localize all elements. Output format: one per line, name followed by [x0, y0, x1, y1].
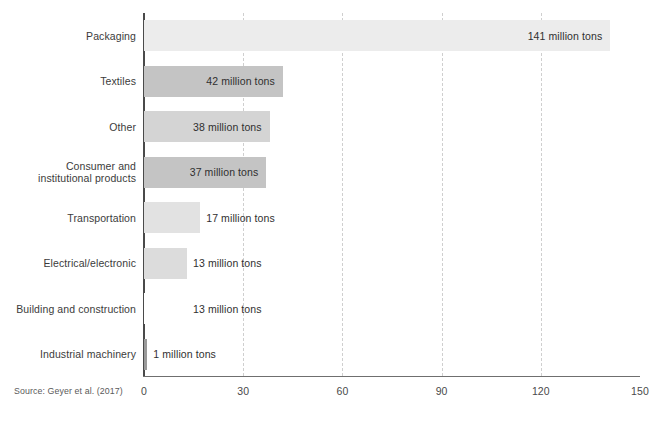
bar-value-label: 38 million tons [144, 104, 270, 150]
x-tick-90: 90 [436, 385, 448, 397]
table-row: Packaging141 million tons [0, 13, 667, 59]
bar-value-label: 1 million tons [153, 332, 216, 378]
category-label-line: Building and construction [16, 303, 136, 316]
x-tick-150: 150 [631, 385, 649, 397]
category-label-line: Electrical/electronic [43, 257, 136, 270]
x-tick-30: 30 [237, 385, 249, 397]
bar-value-label: 42 million tons [144, 59, 283, 105]
category-label-line: Transportation [67, 212, 136, 225]
category-label: Other [0, 104, 136, 150]
category-label: Building and construction [0, 286, 136, 332]
bar [144, 248, 187, 279]
bar [144, 339, 147, 370]
category-label-line: institutional products [38, 172, 136, 185]
category-label-line: Consumer and [66, 160, 136, 173]
table-row: Industrial machinery1 million tons [0, 332, 667, 378]
x-tick-120: 120 [532, 385, 550, 397]
category-label: Consumer andinstitutional products [0, 150, 136, 196]
category-label: Electrical/electronic [0, 241, 136, 287]
bar-value-label: 17 million tons [206, 195, 275, 241]
table-row: Building and construction13 million tons [0, 286, 667, 332]
bar-value-label: 13 million tons [193, 286, 262, 332]
category-label: Transportation [0, 195, 136, 241]
category-label-line: Packaging [86, 30, 136, 43]
table-row: Consumer andinstitutional products37 mil… [0, 150, 667, 196]
bar [144, 202, 200, 233]
bar-value-label: 37 million tons [144, 150, 266, 196]
bar-value-label: 13 million tons [193, 241, 262, 287]
category-label: Industrial machinery [0, 332, 136, 378]
bar-chart: Packaging141 million tonsTextiles42 mill… [0, 0, 667, 434]
category-label-line: Textiles [100, 75, 136, 88]
bar [144, 293, 187, 324]
source-note: Source: Geyer et al. (2017) [14, 386, 123, 396]
x-tick-60: 60 [336, 385, 348, 397]
table-row: Textiles42 million tons [0, 59, 667, 105]
category-label: Packaging [0, 13, 136, 59]
table-row: Electrical/electronic13 million tons [0, 241, 667, 287]
bar-rows: Packaging141 million tonsTextiles42 mill… [0, 13, 667, 377]
category-label-line: Other [109, 121, 136, 134]
x-tick-0: 0 [141, 385, 147, 397]
category-label: Textiles [0, 59, 136, 105]
category-label-line: Industrial machinery [40, 348, 136, 361]
bar-value-label: 141 million tons [144, 13, 610, 59]
table-row: Transportation17 million tons [0, 195, 667, 241]
table-row: Other38 million tons [0, 104, 667, 150]
